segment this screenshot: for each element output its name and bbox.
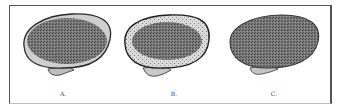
panel-label-b: B.: [167, 90, 181, 97]
figure-frame: A. B. C.: [9, 5, 332, 104]
panel-label-a: A.: [56, 90, 70, 97]
panel-c: C.: [224, 6, 331, 103]
bone-cross-section-c-illustration: [224, 6, 331, 103]
panel-label-c: C.: [267, 90, 281, 97]
bone-cross-section-a-illustration: [10, 6, 117, 103]
bone-cross-section-b-illustration: [117, 6, 224, 103]
panel-a: A.: [10, 6, 117, 103]
panel-b: B.: [117, 6, 224, 103]
